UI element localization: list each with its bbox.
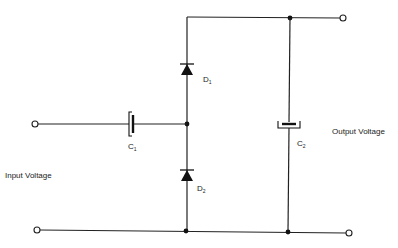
bottom-junction-dot-diode bbox=[184, 229, 189, 234]
diode-d2 bbox=[180, 170, 194, 181]
c2-top-wire bbox=[289, 18, 290, 122]
bottom-rail bbox=[40, 230, 346, 233]
top-rail bbox=[187, 17, 340, 18]
output-top-terminal bbox=[340, 15, 346, 21]
c2-bottom-wire bbox=[288, 128, 289, 232]
bottom-junction-dot-c2 bbox=[286, 230, 291, 235]
diode-d1 bbox=[180, 64, 194, 75]
capacitor-c1 bbox=[129, 112, 133, 136]
input-voltage-label: Input Voltage bbox=[5, 171, 52, 180]
input-bottom-terminal bbox=[34, 227, 40, 233]
voltage-doubler-diagram: D1 C1 D2 C2 Input Voltage Output Voltage bbox=[0, 0, 398, 248]
output-voltage-label: Output Voltage bbox=[332, 127, 385, 136]
d1-label: D1 bbox=[203, 75, 212, 85]
capacitor-c2 bbox=[278, 121, 300, 128]
input-top-terminal bbox=[32, 121, 38, 127]
c1-label: C1 bbox=[128, 142, 137, 152]
output-bottom-terminal bbox=[346, 230, 352, 236]
d2-label: D2 bbox=[197, 184, 206, 194]
c2-label: C2 bbox=[297, 139, 306, 149]
